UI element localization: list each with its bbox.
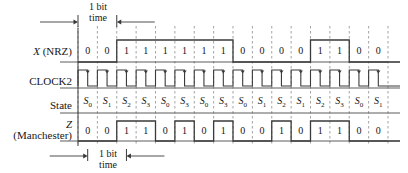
bit-value-cell: 1 — [117, 126, 136, 136]
bit-value-cell: 0 — [233, 46, 252, 56]
state-cell: S0 — [233, 96, 252, 109]
bit-value-cell: 0 — [97, 46, 116, 56]
bit-value-cell: 0 — [291, 46, 310, 56]
state-cell: S1 — [252, 96, 271, 109]
bit-value-cell: 0 — [369, 126, 388, 136]
bit-value-cell: 0 — [349, 46, 368, 56]
bit-value-cell: 0 — [291, 126, 310, 136]
state-cell: S3 — [330, 96, 349, 109]
bit-value-cell: 1 — [311, 126, 330, 136]
state-cell: S1 — [97, 96, 116, 109]
bit-value-cell: 1 — [330, 46, 349, 56]
state-cell: S2 — [311, 96, 330, 109]
bit-value-cell: 0 — [78, 126, 97, 136]
bit-value-cell: 1 — [214, 126, 233, 136]
bit-value-cell: 1 — [136, 46, 155, 56]
state-cell: S2 — [272, 96, 291, 109]
bit-value-cell: 1 — [214, 46, 233, 56]
state-cell: S0 — [194, 96, 213, 109]
bit-value-cell: 1 — [311, 46, 330, 56]
bit-value-cell: 0 — [252, 126, 271, 136]
bit-value-cell: 0 — [156, 126, 175, 136]
state-cell: S3 — [175, 96, 194, 109]
timing-graphics — [0, 0, 408, 173]
state-cell: S1 — [369, 96, 388, 109]
bit-value-cell: 1 — [175, 46, 194, 56]
bit-value-cell: 1 — [194, 46, 213, 56]
bit-value-cell: 0 — [194, 126, 213, 136]
bit-value-cell: 1 — [117, 46, 136, 56]
state-cell: S3 — [214, 96, 233, 109]
bit-value-cell: 1 — [136, 126, 155, 136]
bit-value-cell: 1 — [330, 126, 349, 136]
bit-value-cell: 0 — [272, 46, 291, 56]
state-cell: S3 — [136, 96, 155, 109]
state-cell: S0 — [156, 96, 175, 109]
bit-value-cell: 0 — [349, 126, 368, 136]
bit-value-cell: 0 — [78, 46, 97, 56]
bit-value-cell: 0 — [252, 46, 271, 56]
bit-value-cell: 1 — [156, 46, 175, 56]
state-cell: S0 — [349, 96, 368, 109]
state-cell: S2 — [117, 96, 136, 109]
state-cell: S0 — [78, 96, 97, 109]
bit-value-cell: 0 — [369, 46, 388, 56]
bit-value-cell: 0 — [97, 126, 116, 136]
bit-value-cell: 0 — [233, 126, 252, 136]
timing-diagram: X (NRZ) CLOCK2 State Z(Manchester) 1 bit… — [0, 0, 408, 173]
bit-value-cell: 1 — [272, 126, 291, 136]
bit-value-cell: 1 — [175, 126, 194, 136]
state-cell: S1 — [291, 96, 310, 109]
